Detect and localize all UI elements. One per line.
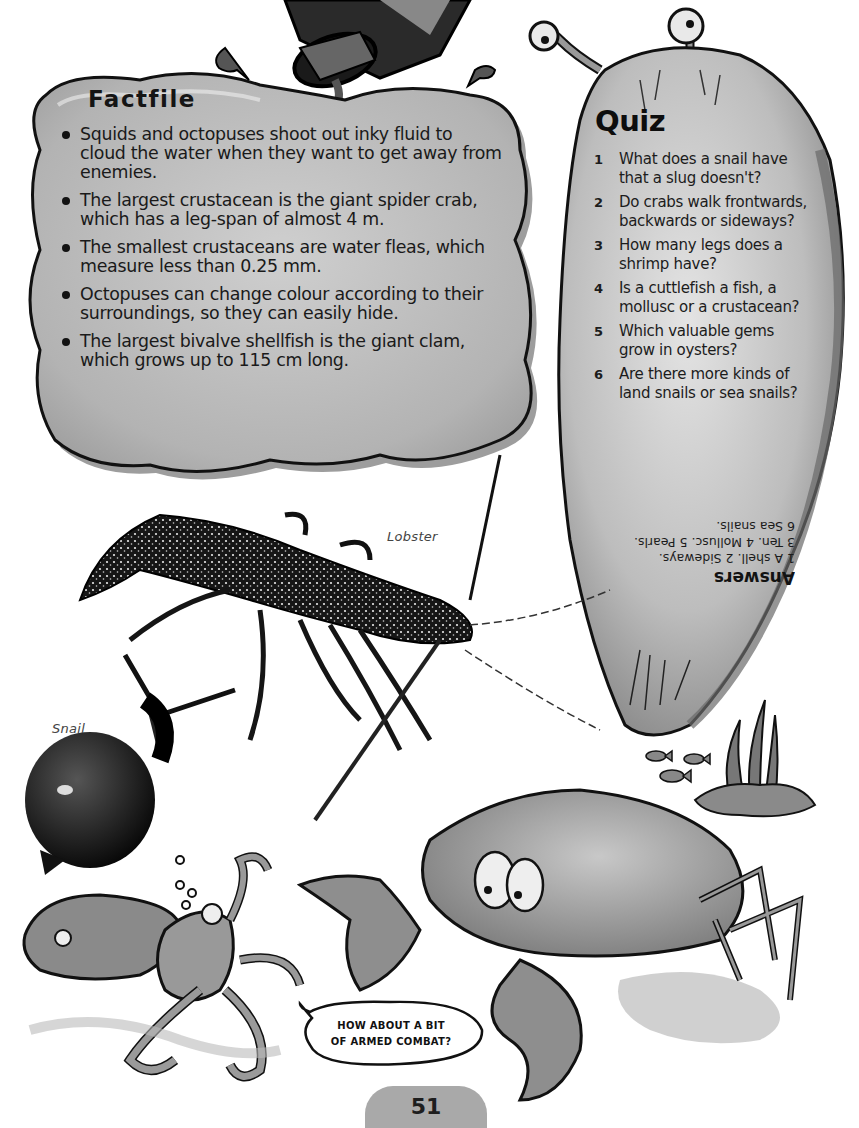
answers-title: Answers — [585, 568, 795, 588]
factfile-title: Factfile — [88, 86, 196, 112]
lobster-caption: Lobster — [387, 529, 438, 544]
quiz-question: 6Are there more kinds of land snails or … — [594, 365, 814, 403]
page-number-badge: 51 — [365, 1086, 487, 1128]
quiz-question: 1What does a snail have that a slug does… — [594, 150, 814, 188]
octopus-illustration — [24, 856, 300, 1076]
fish-illustration — [646, 751, 710, 782]
answers-line: 1 A shell. 2 Sideways. — [585, 550, 795, 566]
speech-line: OF ARMED COMBAT? — [300, 1034, 482, 1050]
seaweed-illustration — [695, 700, 815, 816]
bullet-icon — [62, 244, 70, 252]
fact-item: Squids and octopuses shoot out inky flui… — [62, 125, 502, 182]
question-number: 6 — [594, 365, 603, 384]
snail-caption: Snail — [52, 721, 85, 736]
answers-line: 3 Ten. 4 Mollusc. 5 Pearls. — [585, 534, 795, 550]
question-number: 2 — [594, 193, 603, 212]
bullet-icon — [62, 291, 70, 299]
quiz-question: 2Do crabs walk frontwards, backwards or … — [594, 193, 814, 231]
bullet-icon — [62, 197, 70, 205]
question-number: 1 — [594, 150, 603, 169]
fact-item: The largest crustacean is the giant spid… — [62, 191, 502, 229]
lobster-illustration — [80, 455, 610, 820]
snail-illustration — [25, 655, 235, 875]
quiz-question-list: 1What does a snail have that a slug does… — [594, 150, 814, 408]
bullet-icon — [62, 131, 70, 139]
fact-item: The smallest crustaceans are water fleas… — [62, 238, 502, 276]
quiz-question: 4Is a cuttlefish a fish, a mollusc or a … — [594, 279, 814, 317]
question-number: 3 — [594, 236, 603, 255]
fact-list: Squids and octopuses shoot out inky flui… — [62, 125, 502, 379]
answers-upside-down: Answers 1 A shell. 2 Sideways. 3 Ten. 4 … — [585, 518, 795, 588]
quiz-question: 5Which valuable gems grow in oysters? — [594, 322, 814, 360]
fact-item: The largest bivalve shellfish is the gia… — [62, 332, 502, 370]
quiz-title: Quiz — [595, 104, 665, 138]
speech-bubble: HOW ABOUT A BIT OF ARMED COMBAT? — [300, 1004, 482, 1062]
question-number: 4 — [594, 279, 603, 298]
quiz-question: 3How many legs does a shrimp have? — [594, 236, 814, 274]
answers-line: 6 Sea snails. — [585, 518, 795, 534]
fact-item: Octopuses can change colour according to… — [62, 285, 502, 323]
bullet-icon — [62, 338, 70, 346]
question-number: 5 — [594, 322, 603, 341]
speech-line: HOW ABOUT A BIT — [300, 1018, 482, 1034]
